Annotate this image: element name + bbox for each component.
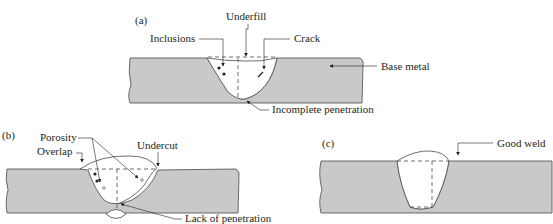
panel-b: (b) Porosity Overlap Undercut Lack of pe… xyxy=(2,129,272,224)
panel-c-tag: (c) xyxy=(322,137,335,150)
label-incomplete-penetration: Incomplete penetration xyxy=(272,103,374,115)
panel-a: (a) Underfill Inclusions Crack Base meta… xyxy=(129,10,430,115)
label-base-metal: Base metal xyxy=(381,60,430,72)
weld-defects-diagram: (a) Underfill Inclusions Crack Base meta… xyxy=(0,0,553,224)
label-underfill: Underfill xyxy=(226,10,266,22)
panel-a-tag: (a) xyxy=(135,14,148,27)
label-porosity: Porosity xyxy=(40,131,77,143)
label-good-weld: Good weld xyxy=(497,137,546,149)
panel-b-tag: (b) xyxy=(2,129,15,142)
label-lack-of-penetration: Lack of penetration xyxy=(185,212,272,224)
label-inclusions: Inclusions xyxy=(150,32,195,44)
label-overlap: Overlap xyxy=(37,145,73,157)
panel-c: (c) Good weld xyxy=(320,137,552,213)
label-crack: Crack xyxy=(294,32,321,44)
label-undercut: Undercut xyxy=(137,139,178,151)
